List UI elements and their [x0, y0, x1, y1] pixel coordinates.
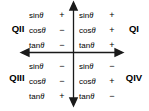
sign-row: tanθ − — [79, 89, 123, 104]
sign-row: tanθ + — [79, 38, 123, 53]
function-name-cos: cosθ — [29, 74, 55, 89]
sign-value-cos: − — [55, 74, 69, 89]
sign-table-qii: sinθ + cosθ − tanθ − — [29, 8, 73, 53]
sign-row: sinθ + — [29, 8, 73, 23]
sign-row: tanθ + — [29, 89, 73, 104]
function-name-cos: cosθ — [79, 74, 105, 89]
sign-value-tan: + — [105, 38, 119, 53]
function-name-tan: tanθ — [79, 89, 105, 104]
sign-value-sin: + — [55, 8, 69, 23]
sign-value-cos: + — [105, 74, 119, 89]
sign-value-sin: + — [105, 8, 119, 23]
function-name-sin: sinθ — [29, 59, 55, 74]
sign-value-cos: + — [105, 23, 119, 38]
function-name-tan: tanθ — [79, 38, 105, 53]
function-name-cos: cosθ — [29, 23, 55, 38]
function-name-sin: sinθ — [79, 59, 105, 74]
sign-row: sinθ + — [79, 8, 123, 23]
sign-row: cosθ − — [29, 23, 73, 38]
quadrant-label-qiv: QIV — [121, 73, 147, 83]
sign-row: cosθ − — [29, 74, 73, 89]
x-axis-left-arrowhead — [21, 49, 29, 56]
sign-value-tan: − — [105, 89, 119, 104]
quadrant-label-qi: QI — [124, 24, 144, 34]
sign-table-qiv: sinθ − cosθ + tanθ − — [79, 59, 123, 104]
sign-table-qiii: sinθ − cosθ − tanθ + — [29, 59, 73, 104]
function-name-tan: tanθ — [29, 38, 55, 53]
sign-row: sinθ − — [79, 59, 123, 74]
sign-value-cos: − — [55, 23, 69, 38]
sign-row: cosθ + — [79, 74, 123, 89]
sign-row: cosθ + — [79, 23, 123, 38]
sign-table-qi: sinθ + cosθ + tanθ + — [79, 8, 123, 53]
function-name-sin: sinθ — [79, 8, 105, 23]
sign-value-tan: + — [55, 89, 69, 104]
sign-value-sin: − — [55, 59, 69, 74]
coordinate-axes — [0, 0, 149, 111]
sign-row: sinθ − — [29, 59, 73, 74]
sign-value-sin: − — [105, 59, 119, 74]
quadrant-label-qiii: QIII — [4, 73, 30, 83]
sign-row: tanθ − — [29, 38, 73, 53]
function-name-cos: cosθ — [79, 23, 105, 38]
quadrant-label-qii: QII — [6, 24, 30, 34]
sign-value-tan: − — [55, 38, 69, 53]
function-name-sin: sinθ — [29, 8, 55, 23]
function-name-tan: tanθ — [29, 89, 55, 104]
trig-quadrant-diagram: QII QI QIII QIV sinθ + cosθ − tanθ − sin… — [0, 0, 149, 111]
